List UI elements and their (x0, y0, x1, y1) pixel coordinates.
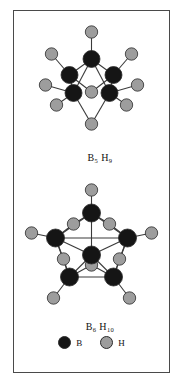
formula-h-symbol-2: H (99, 321, 107, 332)
boron-atom (61, 67, 78, 84)
hydrogen-atom (85, 86, 97, 98)
hexaborane-diagram (14, 183, 169, 308)
figure-frame: B5H9 B6H10 B H (13, 10, 170, 373)
boron-atom (61, 268, 79, 286)
boron-atom-icon (58, 336, 71, 349)
hydrogen-atom (50, 99, 62, 111)
hydrogen-atom (85, 184, 97, 196)
hydrogen-atom (25, 227, 37, 239)
hydrogen-atom (47, 292, 59, 304)
pentaborane-diagram (14, 23, 169, 138)
hydrogen-atom (113, 253, 125, 265)
boron-atom (83, 51, 100, 68)
formula-b-symbol-2: B (86, 321, 93, 332)
formula-pentaborane: B5H9 (14, 141, 169, 174)
hydrogen-atom-icon (100, 336, 113, 349)
formula-b-symbol: B (88, 152, 95, 163)
structure-pentaborane: B5H9 (14, 23, 169, 138)
formula-b-subscript-2: 6 (93, 326, 97, 333)
legend-label-boron: B (76, 338, 82, 348)
formula-h-subscript: 9 (109, 157, 113, 164)
legend-item-boron: B (58, 336, 82, 349)
boron-atom (105, 67, 122, 84)
hydrogen-atom (120, 99, 132, 111)
legend-label-hydrogen: H (118, 338, 125, 348)
hydrogen-atom (145, 227, 157, 239)
boron-atom (119, 229, 137, 247)
boron-atom (47, 229, 65, 247)
legend-item-hydrogen: H (100, 336, 125, 349)
hydrogen-atom (131, 79, 143, 91)
hydrogen-atom (57, 253, 69, 265)
hydrogen-atom (85, 118, 97, 130)
boron-atom (101, 85, 118, 102)
legend: B H (14, 336, 169, 349)
hydrogen-atom (85, 26, 97, 38)
boron-atom (83, 204, 101, 222)
boron-atom (105, 268, 123, 286)
boron-atom (83, 246, 101, 264)
formula-h-subscript-2: 10 (107, 326, 114, 333)
hydrogen-atom (39, 79, 51, 91)
hydrogen-atom (125, 48, 137, 60)
hydrogen-atom (103, 218, 115, 230)
formula-b-subscript: 5 (95, 157, 99, 164)
formula-h-symbol: H (101, 152, 109, 163)
structure-hexaborane: B6H10 (14, 183, 169, 308)
hydrogen-atom (123, 292, 135, 304)
hydrogen-atom (67, 218, 79, 230)
boron-atom (65, 85, 82, 102)
hydrogen-atom (45, 48, 57, 60)
